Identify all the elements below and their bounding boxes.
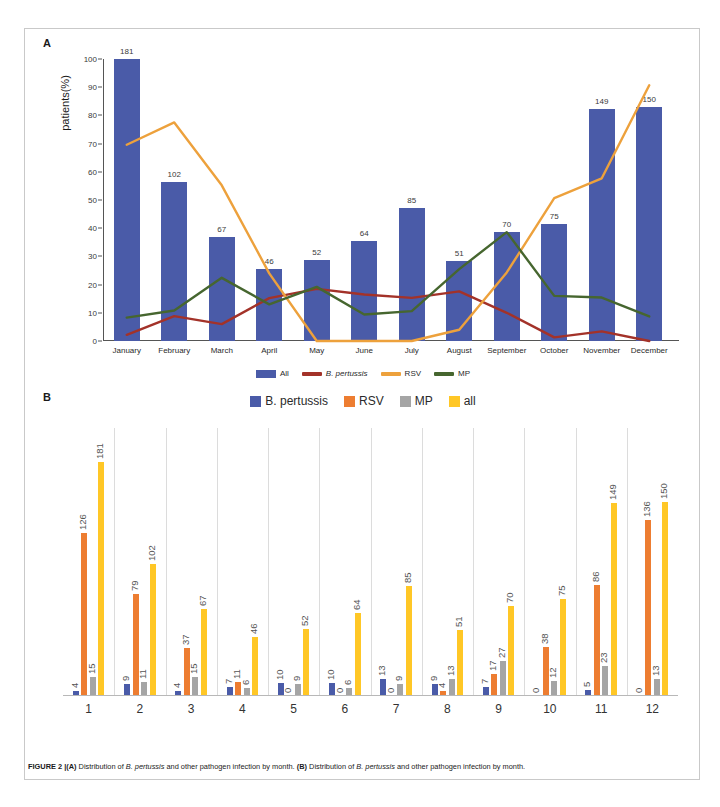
panel-a-plot-area: 0102030405060708090100 18110267465264855… — [103, 59, 673, 341]
panel-b-bar — [133, 594, 139, 696]
panel-b-bar-value: 46 — [248, 623, 259, 634]
panel-b-bar-value: 75 — [556, 585, 567, 596]
panel-b-bar-value: 4 — [171, 683, 182, 688]
panel-b-group-10: 0381275 — [524, 428, 575, 696]
panel-b-x-tick-9: 9 — [495, 702, 502, 716]
panel-b-legend-label: all — [464, 394, 476, 408]
panel-b-bar-value: 6 — [240, 680, 251, 685]
panel-a-x-tick-march: March — [211, 346, 233, 355]
panel-a-x-tick-august: August — [447, 346, 472, 355]
panel-b-bar-value: 4 — [69, 683, 80, 688]
caption-figure-number: FIGURE 2 | — [28, 762, 66, 771]
panel-b-bar — [98, 462, 104, 696]
panel-a-y-tick-mark — [98, 59, 102, 60]
panel-b-x-tick-8: 8 — [444, 702, 451, 716]
panel-b-x-tick-2: 2 — [137, 702, 144, 716]
panel-b-x-tick-1: 1 — [85, 702, 92, 716]
panel-a-line-mp — [127, 232, 650, 317]
panel-a-y-tick-mark — [98, 200, 102, 201]
panel-b-bar-value: 181 — [94, 443, 105, 459]
panel-b-bar-value: 102 — [146, 545, 157, 561]
panel-b-legend-item: MP — [400, 394, 433, 408]
panel-a-legend: AllB. pertussisRSVMP — [25, 369, 701, 378]
panel-b-bar-value: 9 — [120, 676, 131, 681]
panel-b-bar-value: 15 — [188, 663, 199, 674]
panel-a-legend-label: RSV — [405, 369, 421, 378]
panel-b-bar-value: 149 — [607, 485, 618, 501]
panel-b-bar-value: 38 — [539, 633, 550, 644]
panel-a-y-tick-30: 30 — [88, 252, 97, 261]
panel-b-bar-value: 126 — [77, 514, 88, 530]
panel-b-bar-value: 64 — [351, 600, 362, 611]
panel-b-bar-value: 11 — [137, 669, 148, 679]
caption-a-tag: (A) — [66, 762, 76, 771]
legend-marker-icon — [256, 370, 276, 378]
panel-b-group-3: 4371567 — [166, 428, 217, 696]
panel-a-legend-item: MP — [434, 369, 470, 378]
panel-b-group-8: 941351 — [422, 428, 473, 696]
figure-caption: FIGURE 2 |(A) Distribution of B. pertuss… — [28, 762, 708, 772]
panel-b-bar-value: 7 — [479, 679, 490, 684]
panel-b-bar-value: 13 — [376, 666, 387, 677]
panel-b-x-tick-6: 6 — [342, 702, 349, 716]
panel-b-bar-value: 67 — [197, 596, 208, 607]
panel-b-bar-value: 51 — [453, 617, 464, 628]
panel-a-label: A — [43, 37, 51, 49]
panel-b-bar — [449, 679, 455, 696]
legend-swatch-icon — [344, 396, 355, 407]
panel-b-bar-value: 7 — [223, 679, 234, 684]
panel-b-group-12: 013613150 — [627, 428, 678, 696]
panel-a-legend-label: B. pertussis — [326, 369, 368, 378]
panel-a-y-tick-90: 90 — [88, 83, 97, 92]
panel-b-bar — [406, 586, 412, 696]
panel-b-bar — [662, 502, 668, 696]
panel-b-bar-value: 37 — [180, 635, 191, 646]
panel-a-y-tick-mark — [98, 143, 102, 144]
panel-a-x-tick-october: October — [540, 346, 568, 355]
panel-b-bar — [201, 609, 207, 696]
caption-a-species: B. pertussis — [126, 762, 165, 771]
panel-a-legend-item: B. pertussis — [302, 369, 368, 378]
panel-b-legend-label: MP — [415, 394, 433, 408]
caption-a-text-2: and other pathogen infection by month. — [164, 762, 296, 771]
panel-a-x-tick-june: June — [356, 346, 373, 355]
panel-a-y-tick-mark — [98, 171, 102, 172]
panel-a-x-tick-february: February — [158, 346, 190, 355]
panel-b-bar-value: 0 — [334, 688, 345, 693]
panel-a-x-tick-july: July — [405, 346, 419, 355]
panel-a-legend-label: All — [280, 369, 289, 378]
panel-b-bar-value: 0 — [282, 688, 293, 693]
panel-b-bar — [141, 682, 147, 696]
panel-a-y-tick-70: 70 — [88, 139, 97, 148]
legend-marker-icon — [434, 372, 454, 376]
panel-b-legend-item: RSV — [344, 394, 384, 408]
panel-b-group-7: 130985 — [371, 428, 422, 696]
panel-b-bar-value: 9 — [428, 676, 439, 681]
panel-a-legend-item: RSV — [381, 369, 421, 378]
panel-a-y-tick-mark — [98, 312, 102, 313]
panel-b-bar-value: 6 — [342, 680, 353, 685]
panel-b-bar-value: 23 — [598, 653, 609, 664]
panel-b-bar — [508, 606, 514, 696]
panel-a-y-tick-mark — [98, 87, 102, 88]
panel-b-bar — [150, 564, 156, 696]
panel-b-x-tick-3: 3 — [188, 702, 195, 716]
panel-b-bar — [491, 674, 497, 696]
panel-b-x-tick-10: 10 — [543, 702, 556, 716]
panel-a-line-rsv — [127, 85, 650, 341]
panel-b-bar — [551, 681, 557, 697]
panel-b-bar-value: 136 — [641, 501, 652, 517]
panel-a-y-tick-80: 80 — [88, 111, 97, 120]
panel-a-line-series — [103, 59, 673, 341]
panel-b-group-6: 100664 — [319, 428, 370, 696]
legend-swatch-icon — [250, 396, 261, 407]
panel-b-bar — [192, 677, 198, 696]
panel-b-bar-value: 0 — [633, 688, 644, 693]
panel-a-y-tick-50: 50 — [88, 196, 97, 205]
panel-b-plot-area: 4126151819791110243715677116461009521006… — [63, 428, 678, 696]
panel-b-bar-value: 4 — [436, 683, 447, 688]
panel-b-bar-value: 5 — [581, 681, 592, 686]
legend-swatch-icon — [449, 396, 460, 407]
panel-b-bar — [252, 637, 258, 696]
legend-swatch-icon — [400, 396, 411, 407]
